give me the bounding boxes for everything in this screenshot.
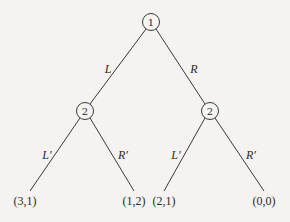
- node-player-1-label: 1: [148, 17, 154, 28]
- payoff-leaf-1: (3,1): [14, 194, 37, 208]
- action-label-left-Lprime: L′: [41, 148, 52, 162]
- action-label-right-Lprime: L′: [170, 148, 181, 162]
- node-player-1: 1: [143, 14, 160, 31]
- action-label-left-Rprime: R′: [117, 148, 128, 162]
- node-player-2-right-label: 2: [207, 106, 213, 117]
- payoff-leaf-2: (1,2): [123, 194, 146, 208]
- action-label-R: R: [189, 62, 198, 76]
- edge-L: [90, 29, 146, 104]
- edge-right-Lprime: [164, 118, 205, 191]
- game-tree: 1 2 2 L R L′ R′ L′ R′ (3,1) (1,2) (2,1) …: [0, 0, 290, 222]
- payoff-leaf-3: (2,1): [153, 194, 176, 208]
- node-player-2-left: 2: [77, 103, 94, 120]
- edge-left-Lprime: [30, 118, 80, 191]
- edge-right-Rprime: [215, 118, 264, 191]
- action-label-right-Rprime: R′: [245, 148, 256, 162]
- action-label-L: L: [104, 62, 112, 76]
- node-player-2-right: 2: [202, 103, 219, 120]
- node-player-2-left-label: 2: [82, 106, 88, 117]
- payoff-leaf-4: (0,0): [253, 194, 276, 208]
